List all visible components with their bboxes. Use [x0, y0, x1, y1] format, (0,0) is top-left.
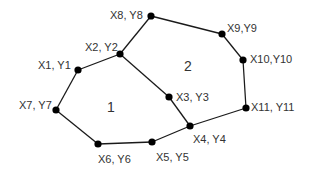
edge-p11-p4 [190, 108, 246, 126]
edges [56, 16, 246, 144]
vertex-p4 [186, 122, 193, 129]
edge-p8-p9 [151, 16, 222, 34]
vertex-p9 [218, 30, 225, 37]
vertex-label-p3: X3, Y3 [176, 91, 209, 103]
vertex-label-p2: X2, Y2 [85, 41, 118, 53]
vertex-p1 [74, 66, 81, 73]
edge-p2-p8 [120, 16, 151, 54]
vertex-p6 [94, 140, 101, 147]
edge-p10-p11 [243, 60, 246, 108]
edge-p7-p1 [56, 70, 78, 110]
vertex-label-p5: X5, Y5 [156, 151, 189, 163]
vertex-p7 [52, 106, 59, 113]
region-2-label: 2 [184, 58, 192, 74]
vertex-label-p1: X1, Y1 [38, 59, 71, 71]
edge-p9-p10 [222, 34, 243, 60]
vertex-p5 [148, 138, 155, 145]
vertex-p8 [147, 12, 154, 19]
region-1-label: 1 [107, 99, 115, 115]
vertex-p10 [239, 56, 246, 63]
edge-p2-p3 [120, 54, 169, 97]
vertex-label-p11: X11, Y11 [251, 101, 294, 113]
vertex-label-p4: X4, Y4 [193, 133, 226, 145]
vertex-p3 [165, 93, 172, 100]
vertex-label-p8: X8, Y8 [110, 9, 143, 21]
vertex-label-p7: X7, Y7 [19, 99, 52, 111]
edge-p1-p2 [78, 54, 120, 70]
vertex-label-p10: X10,Y10 [250, 53, 292, 65]
vertex-label-p9: X9,Y9 [227, 22, 257, 34]
vertex-p11 [242, 104, 249, 111]
region-labels: 12 [107, 58, 192, 115]
edge-p4-p5 [152, 126, 190, 142]
vertex-label-p6: X6, Y6 [98, 153, 131, 165]
edge-p6-p7 [56, 110, 98, 144]
nodes [52, 12, 249, 147]
polygon-diagram: X1, Y1X2, Y2X3, Y3X4, Y4X5, Y5X6, Y6X7, … [0, 0, 315, 172]
edge-p5-p6 [98, 142, 152, 144]
